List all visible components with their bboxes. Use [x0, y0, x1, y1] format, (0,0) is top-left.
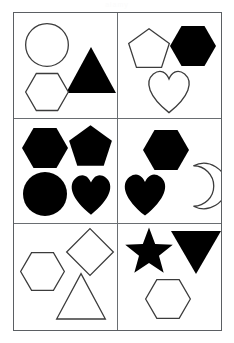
- heart-shape: [72, 175, 111, 214]
- hexagon-black: [20, 123, 70, 173]
- heart-white: [144, 66, 194, 116]
- heart-shape: [148, 71, 188, 112]
- hexagon-shape: [145, 280, 190, 319]
- heart-shape: [124, 174, 164, 215]
- panel-middle-left: [14, 119, 118, 225]
- hexagon-white: [143, 274, 193, 324]
- panel-middle-right: [118, 119, 222, 225]
- circle-black: [21, 170, 69, 218]
- pentagon-shape: [69, 125, 112, 166]
- star-shape: [125, 228, 173, 273]
- hexagon-shape: [26, 74, 69, 111]
- crescent-shape: [193, 163, 221, 208]
- star-black: [122, 225, 176, 279]
- pentagon-shape: [128, 29, 169, 68]
- triangle-white: [54, 271, 108, 325]
- pentagon-black: [66, 122, 115, 171]
- triangle-down-shape: [171, 231, 221, 274]
- hexagon-white: [23, 68, 71, 116]
- triangle-shape: [57, 274, 106, 319]
- triangle-shape: [66, 47, 116, 93]
- triangle-black: [64, 45, 118, 99]
- hexagon-shape: [22, 128, 68, 168]
- shape-grid-figure: [13, 12, 222, 331]
- heart-black: [67, 170, 115, 218]
- panel-top-right: [118, 13, 222, 119]
- panel-bottom-right: [118, 224, 222, 330]
- panel-top-left: [14, 13, 118, 119]
- hexagon-shape: [170, 26, 216, 66]
- watermark-text: alamy: [0, 0, 234, 10]
- panel-grid: [14, 13, 221, 330]
- hexagon-black: [168, 21, 218, 71]
- diamond-shape: [67, 229, 114, 276]
- panel-bottom-left: [14, 224, 118, 330]
- circle-shape: [26, 24, 69, 67]
- triangle-down-black: [169, 226, 222, 280]
- heart-black: [120, 169, 170, 219]
- crescent-white: [171, 162, 219, 210]
- circle-shape: [23, 172, 67, 216]
